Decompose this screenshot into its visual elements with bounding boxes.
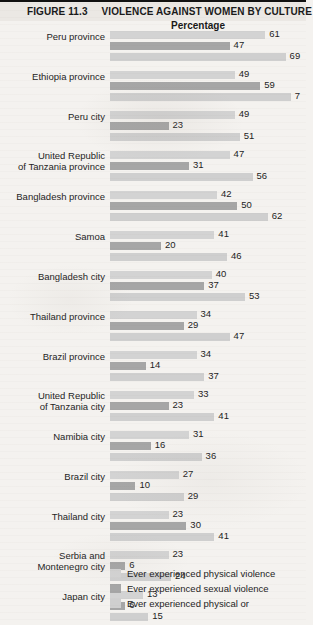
- bar: [110, 402, 169, 410]
- category-label: Peru province: [0, 31, 105, 42]
- category-label: Thailand city: [0, 511, 105, 522]
- bar-value-label: 20: [165, 239, 176, 251]
- bar-row: 14: [110, 362, 306, 370]
- category-label-line: Serbia and: [0, 550, 105, 561]
- category-label: Ethiopia province: [0, 71, 105, 82]
- category-label-line: Montenegro city: [0, 561, 105, 572]
- legend-swatch: [110, 584, 121, 593]
- bar-row: 40: [110, 271, 306, 279]
- bar-value-label: 47: [234, 330, 245, 342]
- chart-group: Ethiopia province49597: [0, 71, 306, 111]
- bar-value-label: 41: [218, 410, 229, 422]
- bar: [110, 282, 204, 290]
- bar-row: 46: [110, 253, 306, 261]
- bar-value-label: 56: [257, 170, 268, 182]
- bar: [110, 253, 227, 261]
- bar-row: 51: [110, 133, 306, 141]
- bar-row: 23: [110, 122, 306, 130]
- category-label-line: Brazil province: [0, 351, 105, 362]
- bar-value-label: 31: [193, 159, 204, 171]
- category-label-line: Bangladesh province: [0, 191, 105, 202]
- bar-row: 29: [110, 493, 306, 501]
- bar-group: 271029: [110, 471, 306, 504]
- bar: [110, 511, 169, 519]
- bar: [110, 151, 230, 159]
- bar-group: 403753: [110, 271, 306, 304]
- bar: [110, 431, 189, 439]
- bar-value-label: 41: [218, 228, 229, 240]
- bar-row: 49: [110, 111, 306, 119]
- chart-group: Peru province614769: [0, 31, 306, 71]
- legend-item: Ever experienced physical or: [110, 598, 275, 609]
- bar-value-label: 23: [173, 399, 184, 411]
- category-label: Peru city: [0, 111, 105, 122]
- bar: [110, 391, 194, 399]
- bar-row: 10: [110, 482, 306, 490]
- bar: [110, 213, 268, 221]
- category-label: Japan city: [0, 591, 105, 602]
- bar-group: 412046: [110, 231, 306, 264]
- bar: [110, 93, 291, 101]
- bar-value-label: 50: [241, 199, 252, 211]
- bar-group: 425062: [110, 191, 306, 224]
- bar-row: 47: [110, 333, 306, 341]
- category-label-line: United Republic: [0, 390, 105, 401]
- bar-value-label: 30: [190, 519, 201, 531]
- bar-value-label: 62: [272, 210, 283, 222]
- bar-row: 41: [110, 231, 306, 239]
- bar-value-label: 47: [234, 39, 245, 51]
- chart-legend: Ever experienced physical violenceEver e…: [110, 568, 275, 613]
- category-label-line: Bangladesh city: [0, 271, 105, 282]
- legend-swatch: [110, 599, 121, 608]
- bar-value-label: 53: [249, 290, 260, 302]
- category-label: Namibia city: [0, 431, 105, 442]
- bar-value-label: 42: [221, 188, 232, 200]
- bar-value-label: 10: [139, 479, 150, 491]
- bar-value-label: 34: [201, 308, 212, 320]
- category-label-line: Peru province: [0, 31, 105, 42]
- bar-row: 42: [110, 191, 306, 199]
- bar: [110, 133, 240, 141]
- bar-row: 20: [110, 242, 306, 250]
- category-label-line: Namibia city: [0, 431, 105, 442]
- bar-value-label: 7: [295, 90, 300, 102]
- bar: [110, 442, 151, 450]
- category-label: United Republicof Tanzania city: [0, 390, 105, 412]
- bar: [110, 82, 260, 90]
- bar: [110, 551, 169, 559]
- bar: [110, 333, 230, 341]
- bar-value-label: 29: [188, 319, 199, 331]
- bar-row: 7: [110, 93, 306, 101]
- bar-row: 30: [110, 522, 306, 530]
- category-label-line: Thailand city: [0, 511, 105, 522]
- bar-value-label: 34: [201, 348, 212, 360]
- bar: [110, 53, 286, 61]
- bar: [110, 122, 169, 130]
- bar: [110, 202, 237, 210]
- bar-value-label: 27: [183, 468, 194, 480]
- bar-row: 34: [110, 351, 306, 359]
- bar: [110, 173, 253, 181]
- bar: [110, 162, 189, 170]
- bar-group: 49597: [110, 71, 306, 104]
- bar-value-label: 49: [239, 68, 250, 80]
- category-label: Samoa: [0, 231, 105, 242]
- bar-value-label: 61: [269, 28, 280, 40]
- bar-row: 34: [110, 311, 306, 319]
- legend-item: Ever experienced sexual violence: [110, 583, 275, 594]
- bar: [110, 362, 146, 370]
- bar-row: 61: [110, 31, 306, 39]
- bar-value-label: 49: [239, 108, 250, 120]
- bar-row: 15: [110, 613, 306, 621]
- bar: [110, 42, 230, 50]
- legend-item: Ever experienced physical violence: [110, 568, 275, 579]
- bar-group: 233041: [110, 511, 306, 544]
- chart-group: Thailand city233041: [0, 511, 306, 551]
- bar-value-label: 37: [208, 370, 219, 382]
- category-label: Brazil city: [0, 471, 105, 482]
- bar-value-label: 69: [290, 50, 301, 62]
- bar-value-label: 16: [155, 439, 166, 451]
- category-label: United Republicof Tanzania province: [0, 150, 105, 172]
- chart-group: United Republicof Tanzania province47315…: [0, 151, 306, 191]
- bar: [110, 482, 135, 490]
